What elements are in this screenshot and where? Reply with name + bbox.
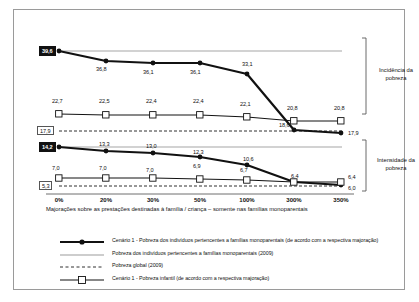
value-label-intensidade-infantil-4: 6,7 [240, 167, 247, 173]
x-tick-6: 350% [321, 197, 361, 203]
x-tick-4: 100% [227, 197, 267, 203]
chart-frame: 39,6 36,8 36,1 36,1 33,1 18,6 17,9 22,7 … [13, 9, 405, 290]
reference-label-pobreza-global-incidencia: 17,9 [37, 126, 54, 135]
value-label-intensidade-monoparentais-2: 13,0 [146, 143, 157, 149]
value-label-incidencia-infantil-1: 22,5 [99, 98, 110, 104]
x-tick-0: 0% [39, 197, 79, 203]
value-label-incidencia-monoparentais-2: 36,1 [143, 69, 154, 75]
legend-item-3[interactable]: Cenário 1 - Pobreza infantil (de acordo … [58, 274, 388, 287]
value-label-intensidade-monoparentais-6: 6,0 [348, 185, 355, 191]
legend-label-0: Cenário 1 - Pobreza dos indivíduos perte… [112, 237, 378, 243]
panel-label-incidencia: Incidência da pobreza [370, 67, 419, 83]
x-tick-5: 300% [274, 197, 314, 203]
value-label-intensidade-monoparentais-0: 14,2 [39, 142, 56, 152]
legend-key-thin-open-square [58, 274, 108, 286]
value-label-incidencia-infantil-2: 22,4 [146, 98, 157, 104]
value-label-incidencia-monoparentais-1: 36,8 [96, 66, 107, 72]
reference-label-pobreza-global-intensidade: 5,3 [39, 181, 52, 190]
series-markers-intensidade-infantil [56, 175, 344, 185]
chart-legend: Cenário 1 - Pobreza dos indivíduos perte… [58, 236, 388, 286]
legend-key-thin-solid-grey [58, 249, 108, 261]
bracket-incidencia [362, 38, 366, 114]
value-label-intensidade-infantil-6: 6,4 [348, 174, 355, 180]
value-label-incidencia-infantil-6: 20,8 [334, 105, 345, 111]
value-label-incidencia-infantil-3: 22,4 [193, 98, 204, 104]
chart-plot-area: 39,6 36,8 36,1 36,1 33,1 18,6 17,9 22,7 … [14, 10, 406, 291]
value-label-intensidade-infantil-1: 7,0 [99, 165, 106, 171]
legend-item-1[interactable]: Pobreza dos indivíduos pertencentes a fa… [58, 249, 388, 262]
series-markers-incidencia-infantil [56, 111, 344, 124]
series-markers-incidencia-monoparentais [57, 49, 344, 136]
value-label-incidencia-monoparentais-4: 33,1 [242, 61, 253, 67]
value-label-incidencia-monoparentais-6: 17,9 [348, 130, 359, 136]
value-label-intensidade-infantil-3: 6,9 [193, 163, 200, 169]
bracket-intensidade [362, 140, 366, 191]
value-label-intensidade-monoparentais-1: 13,3 [99, 141, 110, 147]
value-label-incidencia-infantil-5: 20,8 [287, 105, 298, 111]
value-label-intensidade-monoparentais-5: 6,4 [291, 173, 298, 179]
legend-label-3: Cenário 1 - Pobreza infantil (de acordo … [112, 275, 269, 281]
value-label-incidencia-monoparentais-3: 36,1 [190, 69, 201, 75]
value-label-incidencia-monoparentais-5: 18,6 [279, 122, 290, 128]
x-tick-2: 30% [133, 197, 173, 203]
value-label-intensidade-infantil-2: 7,0 [146, 167, 153, 173]
value-label-incidencia-infantil-0: 22,7 [52, 98, 63, 104]
x-tick-3: 50% [180, 197, 220, 203]
value-label-incidencia-monoparentais-0: 39,6 [39, 46, 56, 56]
value-label-intensidade-monoparentais-4: 10,6 [243, 156, 254, 162]
legend-key-thick-filled-circle [58, 236, 108, 248]
value-label-intensidade-infantil-0: 7,0 [52, 165, 59, 171]
legend-label-1: Pobreza dos indivíduos pertencentes a fa… [112, 250, 273, 256]
panel-label-intensidade: Intensidade da pobreza [370, 157, 419, 173]
legend-item-0[interactable]: Cenário 1 - Pobreza dos indivíduos perte… [58, 236, 388, 249]
legend-item-2[interactable]: Pobreza global (2009) [58, 261, 388, 274]
value-label-incidencia-infantil-4: 22,1 [240, 101, 251, 107]
legend-label-2: Pobreza global (2009) [112, 262, 163, 268]
legend-key-dashed [58, 261, 108, 273]
value-label-intensidade-monoparentais-3: 12,3 [193, 149, 204, 155]
x-tick-1: 20% [86, 197, 126, 203]
chart-subtitle: Majorações sobre as prestações destinada… [46, 206, 308, 212]
